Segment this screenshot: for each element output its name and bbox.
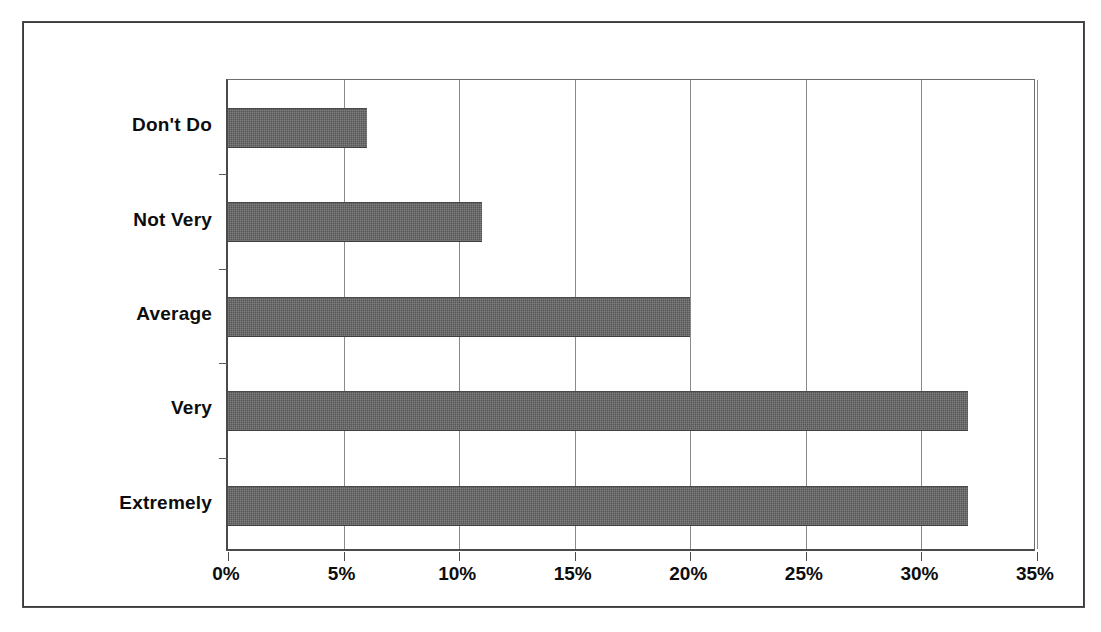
bar-row [228,363,1034,457]
category-label: Extremely [64,492,212,514]
x-axis-tick-label: 10% [438,563,476,585]
y-axis-tick [219,363,228,364]
x-axis-tick [1037,552,1038,561]
bar[interactable] [228,486,968,526]
x-axis-tick-labels: 0%5%10%15%20%25%30%35% [226,563,1035,593]
x-axis-tick-label: 5% [328,563,355,585]
category-axis-labels: Don't DoNot VeryAverageVeryExtremely [64,79,212,551]
bar[interactable] [228,202,482,242]
x-axis-tick [806,552,807,561]
y-axis-tick [219,458,228,459]
bar[interactable] [228,108,367,148]
bar-row [228,269,1034,363]
x-axis-tick [921,552,922,561]
x-axis-tick-label: 20% [669,563,707,585]
x-axis-tick-label: 35% [1016,563,1054,585]
y-axis-tick [219,269,228,270]
chart-outer-frame: Don't DoNot VeryAverageVeryExtremely 0%5… [22,21,1085,608]
bar[interactable] [228,297,690,337]
x-axis-tick-label: 25% [785,563,823,585]
gridline [1037,80,1038,549]
bar-row [228,174,1034,268]
category-label: Very [64,397,212,419]
category-label: Not Very [64,209,212,231]
x-axis-tick [344,552,345,561]
x-axis-tick-label: 15% [554,563,592,585]
bar-row [228,458,1034,552]
x-axis-tick [459,552,460,561]
bar[interactable] [228,391,968,431]
chart-figure: Don't DoNot VeryAverageVeryExtremely 0%5… [0,0,1101,632]
category-label: Average [64,303,212,325]
category-label: Don't Do [64,114,212,136]
x-axis-tick [228,552,229,561]
x-axis-tick-label: 0% [212,563,239,585]
bar-row [228,80,1034,174]
x-axis-tick-label: 30% [900,563,938,585]
x-axis-tick [690,552,691,561]
y-axis-tick [219,174,228,175]
x-axis-tick [575,552,576,561]
plot-area [226,79,1035,551]
